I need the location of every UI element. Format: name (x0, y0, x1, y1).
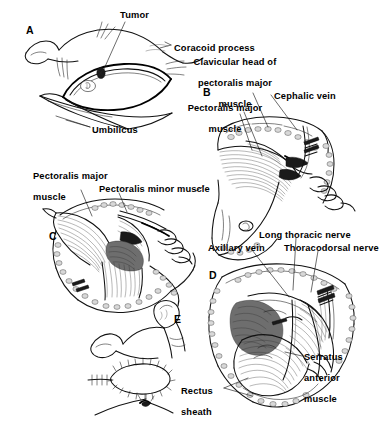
label-rectus-sheath: Rectus sheath (181, 386, 213, 418)
label-tumor: Tumor (120, 10, 149, 21)
panel-letter-e: E (174, 313, 181, 325)
panel-a-leaders (56, 22, 125, 127)
label-thoracodorsal-nerve: Thoracodorsal nerve (284, 243, 379, 254)
label-line-2: muscle (33, 192, 108, 203)
label-cephalic-vein: Cephalic vein (274, 91, 336, 102)
label-coracoid-process: Coracoid process (174, 43, 255, 54)
panel-letter-a: A (26, 24, 34, 36)
label-line-1: Pectoralis major (33, 171, 108, 182)
label-line-2: anterior (304, 373, 343, 384)
label-line-2: sheath (181, 407, 213, 418)
label-line-2: pectoralis major (175, 78, 295, 89)
label-line-1: Clavicular head of (175, 57, 295, 68)
panel-letter-d: D (209, 269, 217, 281)
label-line-1: Rectus (181, 386, 213, 397)
label-line-1: Pectoralis major (177, 103, 273, 114)
panel-e-artwork (88, 301, 185, 415)
label-line-1: Serratus (304, 352, 343, 363)
label-line-3: muscle (304, 394, 343, 405)
label-pectoralis-major-muscle-b: Pectoralis major muscle (177, 103, 273, 135)
label-umbilicus: Umbilicus (92, 125, 138, 136)
label-pectoralis-minor-muscle: Pectoralis minor muscle (99, 184, 210, 195)
label-long-thoracic-nerve: Long thoracic nerve (259, 230, 351, 241)
panel-letter-c: C (49, 230, 57, 242)
label-line-2: muscle (177, 124, 273, 135)
figure-root: A B C D E Tumor Umbilicus Coracoid proce… (0, 0, 390, 423)
label-pectoralis-major-muscle-c: Pectoralis major muscle (33, 171, 108, 203)
panel-c-artwork (43, 199, 195, 313)
label-axillary-vein: Axillary vein (208, 243, 265, 254)
label-serratus-anterior-muscle: Serratus anterior muscle (304, 352, 343, 405)
